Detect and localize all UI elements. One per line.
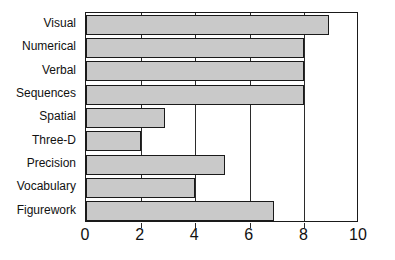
bar-row xyxy=(86,200,357,223)
x-tick-label-0: 0 xyxy=(81,226,90,244)
value-axis-labels: 0246810 xyxy=(85,226,358,250)
bar-row xyxy=(86,60,357,83)
bar-row xyxy=(86,83,357,106)
category-label-numerical: Numerical xyxy=(22,35,76,58)
category-label-visual: Visual xyxy=(44,12,76,35)
category-label-precision: Precision xyxy=(27,152,76,175)
bar-row xyxy=(86,106,357,129)
bar-row xyxy=(86,36,357,59)
bar-row xyxy=(86,176,357,199)
bar-visual xyxy=(86,15,329,35)
bar-three-d xyxy=(86,131,141,151)
bar-row xyxy=(86,130,357,153)
bar-numerical xyxy=(86,38,304,58)
x-tick-label-2: 2 xyxy=(135,226,144,244)
category-label-verbal: Verbal xyxy=(42,59,76,82)
x-tick-label-6: 6 xyxy=(244,226,253,244)
bar-vocabulary xyxy=(86,178,195,198)
x-tick-label-10: 10 xyxy=(349,226,367,244)
x-tick-label-8: 8 xyxy=(299,226,308,244)
x-tick-label-4: 4 xyxy=(190,226,199,244)
bar-figurework xyxy=(86,201,274,221)
bar-spatial xyxy=(86,108,165,128)
category-label-spatial: Spatial xyxy=(39,105,76,128)
category-label-figurework: Figurework xyxy=(17,199,76,222)
category-label-three-d: Three-D xyxy=(32,129,76,152)
category-axis-labels: VisualNumericalVerbalSequencesSpatialThr… xyxy=(0,12,80,222)
plot-area xyxy=(85,12,358,222)
category-label-sequences: Sequences xyxy=(16,82,76,105)
bar-row xyxy=(86,13,357,36)
bar-verbal xyxy=(86,61,304,81)
bar-row xyxy=(86,153,357,176)
category-label-vocabulary: Vocabulary xyxy=(17,175,76,198)
bar-chart-screenshot: VisualNumericalVerbalSequencesSpatialThr… xyxy=(0,0,395,260)
bar-sequences xyxy=(86,85,304,105)
bar-precision xyxy=(86,155,225,175)
